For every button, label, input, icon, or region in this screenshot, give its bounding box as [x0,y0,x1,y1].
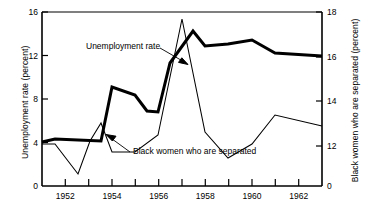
x-tick-label-1960: 1960 [232,192,272,201]
series-annotation-unemployment-rate: Unemployment rate [86,42,160,51]
y-tick-label-left-12: 12 [16,52,38,61]
axis-lines [42,12,322,186]
x-tick-label-1954: 1954 [92,192,132,201]
y-tick-label-left-0: 0 [16,182,38,191]
x-axis-ticks [65,179,298,186]
x-tick-label-1958: 1958 [185,192,225,201]
y-tick-label-right-12: 12 [327,142,349,151]
y-tick-label-left-4: 4 [16,139,38,148]
x-tick-label-1952: 1952 [45,192,85,201]
annotation-leader-black-women [106,135,130,153]
series-line-unemployment-rate [42,31,322,142]
y-tick-label-right-14: 14 [327,97,349,106]
y-axis-right-title: Black women who are separated (percent) [351,22,360,182]
y-axis-left-ticks [42,12,48,143]
x-tick-label-1956: 1956 [139,192,179,201]
annotation-leader-unemployment [160,48,188,65]
chart-figure: Unemployment rate (percent) Black women … [0,0,370,224]
y-tick-label-left-16: 16 [16,8,38,17]
y-tick-label-left-8: 8 [16,95,38,104]
y-tick-label-right-0: 0 [327,182,349,191]
leader-arrow-unemployment [179,58,189,65]
y-tick-label-right-16: 16 [327,53,349,62]
y-tick-label-right-18: 18 [327,8,349,17]
series-annotation-black-women-separated: Black women who are separated [133,147,256,156]
x-tick-label-1962: 1962 [279,192,319,201]
